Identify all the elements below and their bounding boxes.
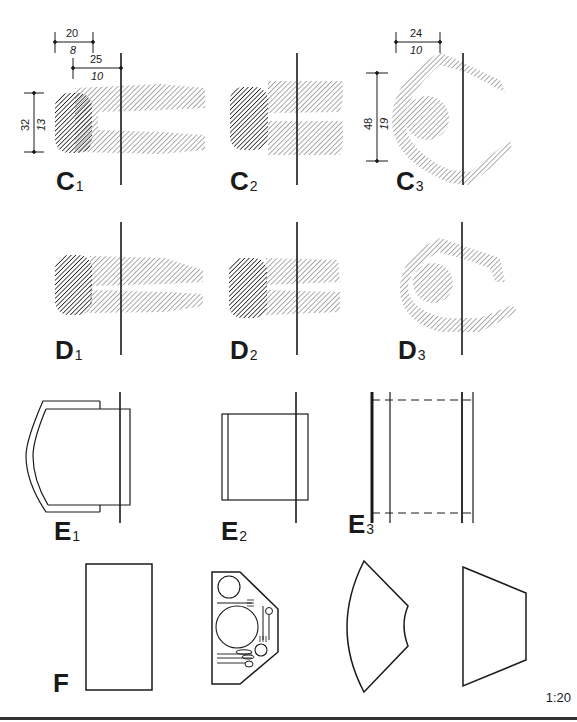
panel-label-d3: D3	[398, 337, 426, 363]
c1-reach-cm: 25	[90, 54, 102, 65]
e3-diagram	[372, 392, 473, 523]
c3-top-width-in: 10	[410, 45, 422, 56]
panel-label-c2: C2	[230, 168, 258, 194]
c1-height-cm: 32	[20, 119, 31, 131]
d3-diagram	[400, 222, 518, 355]
c1-reach-in: 10	[91, 71, 103, 82]
e2-diagram	[222, 392, 308, 523]
c3-height-cm: 48	[363, 118, 374, 130]
c3-top-width-cm: 24	[410, 28, 422, 39]
scale-label: 1:20	[546, 690, 571, 705]
panel-label-f: F	[53, 670, 69, 696]
drawing-canvas	[0, 0, 577, 722]
c1-diagram	[55, 53, 205, 185]
c1-top-width-cm: 20	[66, 28, 78, 39]
panel-label-d2: D2	[230, 337, 258, 363]
bottom-rule	[0, 717, 577, 720]
c1-height-in: 13	[36, 119, 47, 131]
panel-label-c1: C1	[56, 168, 84, 194]
f-hexagonal-table-place-setting	[212, 572, 278, 684]
panel-label-e2: E2	[221, 518, 247, 544]
c3-height-in: 19	[379, 118, 390, 130]
panel-label-d1: D1	[55, 337, 83, 363]
c1-top-width-in: 8	[70, 45, 76, 56]
e1-diagram	[26, 392, 130, 523]
f-trapezoid-table	[463, 567, 526, 686]
panel-label-e3: E3	[348, 511, 374, 537]
f-annular-sector-table	[347, 561, 408, 692]
d1-diagram	[55, 222, 203, 355]
panel-label-c3: C3	[396, 168, 424, 194]
f-rectangle-table	[86, 564, 152, 690]
panel-label-e1: E1	[54, 518, 80, 544]
